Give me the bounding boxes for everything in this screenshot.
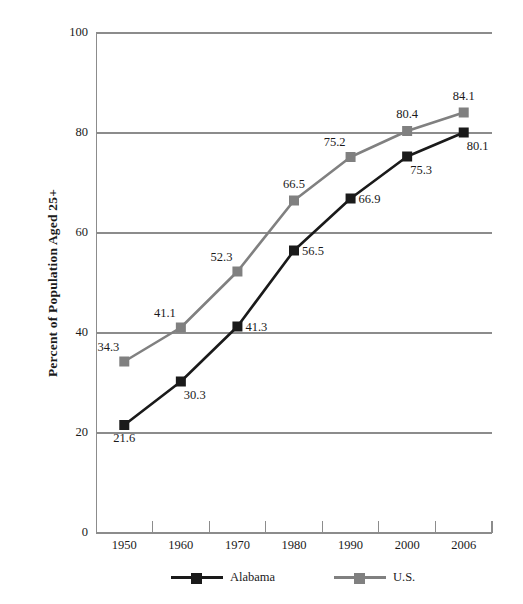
- data-point-alabama-1960[interactable]: [176, 377, 186, 387]
- data-point-u-s-1970[interactable]: [232, 267, 242, 277]
- data-label-alabama-1960: 30.3: [184, 388, 214, 403]
- data-label-alabama-2006: 80.1: [467, 139, 497, 154]
- data-label-u-s-2006: 84.1: [449, 89, 479, 104]
- data-series-layer: [0, 0, 523, 604]
- data-point-alabama-1990[interactable]: [346, 194, 356, 204]
- data-point-u-s-1990[interactable]: [346, 152, 356, 162]
- data-point-alabama-1970[interactable]: [232, 322, 242, 332]
- legend-item-us[interactable]: U.S.: [334, 568, 415, 586]
- data-label-alabama-1980: 56.5: [302, 244, 332, 259]
- series-line-u-s: [124, 113, 463, 362]
- data-point-alabama-2006[interactable]: [459, 128, 469, 138]
- data-label-alabama-1950: 21.6: [109, 431, 139, 446]
- data-label-alabama-1970: 41.3: [245, 320, 275, 335]
- data-point-u-s-2006[interactable]: [459, 108, 469, 118]
- data-label-u-s-1980: 66.5: [279, 177, 309, 192]
- chart-figure: Percent of Population Aged 25+ 020406080…: [0, 0, 523, 604]
- data-point-u-s-1980[interactable]: [289, 196, 299, 206]
- legend-marker-0: [191, 573, 202, 584]
- data-point-u-s-1950[interactable]: [119, 357, 129, 367]
- data-point-u-s-1960[interactable]: [176, 323, 186, 333]
- legend-swatch-us: [334, 570, 386, 584]
- data-label-u-s-1950: 34.3: [89, 340, 119, 355]
- legend-label-alabama: Alabama: [230, 570, 275, 585]
- data-label-u-s-1990: 75.2: [316, 135, 346, 150]
- data-label-alabama-1990: 66.9: [359, 192, 389, 207]
- data-label-u-s-1970: 52.3: [202, 250, 232, 265]
- data-label-u-s-2000: 80.4: [392, 107, 422, 122]
- legend-label-us: U.S.: [393, 570, 415, 585]
- data-label-alabama-2000: 75.3: [410, 163, 440, 178]
- data-point-alabama-1950[interactable]: [119, 420, 129, 430]
- data-point-alabama-2000[interactable]: [402, 152, 412, 162]
- data-point-u-s-2000[interactable]: [402, 126, 412, 136]
- legend: Alabama U.S.: [96, 568, 492, 592]
- data-point-alabama-1980[interactable]: [289, 246, 299, 256]
- legend-marker-1: [354, 573, 365, 584]
- legend-swatch-alabama: [171, 570, 223, 584]
- legend-item-alabama[interactable]: Alabama: [171, 568, 275, 586]
- data-label-u-s-1960: 41.1: [146, 306, 176, 321]
